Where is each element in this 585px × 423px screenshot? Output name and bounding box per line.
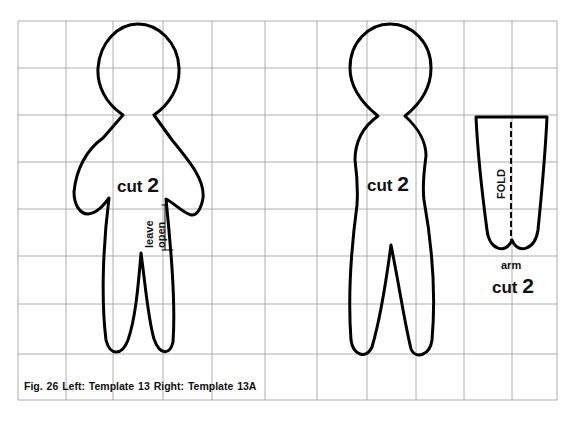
template-13-cut-label: cut 2 (117, 173, 159, 197)
cut-text: cut (117, 177, 143, 196)
leave-open-line2: open (155, 220, 167, 248)
cut-text: cut (367, 176, 393, 195)
cut-text: cut (492, 278, 518, 297)
leave-open-line1: leave (143, 220, 155, 248)
fold-label: FOLD (495, 169, 507, 199)
cut-count: 2 (397, 172, 409, 195)
arm-label: arm (501, 259, 521, 271)
template-13a-arm-outline (476, 117, 547, 249)
cut-count: 2 (147, 173, 159, 196)
arm-cut-label: cut 2 (492, 274, 534, 298)
leave-open-label: leave open (143, 220, 167, 248)
figure-caption: Fig. 26 Left: Template 13 Right: Templat… (24, 380, 256, 392)
cut-count: 2 (522, 274, 534, 297)
template-13a-cut-label: cut 2 (367, 172, 409, 196)
pattern-diagram (0, 0, 585, 423)
